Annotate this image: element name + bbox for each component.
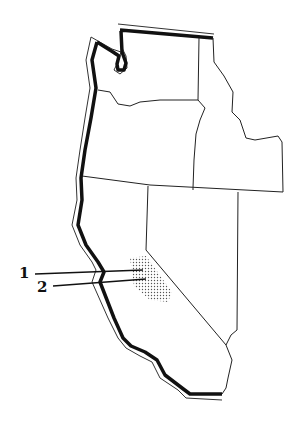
pointer-line-1 (35, 270, 143, 274)
coastline-thick (78, 30, 222, 394)
washington-oregon-border (98, 90, 205, 188)
label-1: 1 (19, 264, 29, 282)
washington-idaho-border (198, 38, 199, 100)
northern-border-ca-nv (82, 176, 283, 192)
map-canvas (0, 0, 303, 431)
label-2: 2 (37, 278, 47, 296)
idaho-border (213, 38, 283, 192)
